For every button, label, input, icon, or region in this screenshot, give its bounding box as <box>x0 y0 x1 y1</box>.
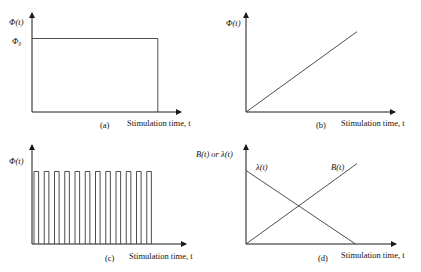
pulse <box>116 171 121 244</box>
pulse <box>55 171 60 244</box>
panel-caption: (a) <box>100 120 110 130</box>
pulse <box>85 171 90 244</box>
pulse <box>137 171 142 244</box>
pulse <box>75 171 80 244</box>
x-axis-label: Stimulation time, t <box>341 250 405 260</box>
lambda-label: λ(t) <box>255 162 268 172</box>
y-axis-label: Φ(t) <box>9 156 24 166</box>
panel-caption: (c) <box>105 253 115 263</box>
pulse <box>44 171 49 244</box>
panel-a: Φ(t) Φ₀ Stimulation time, t (a) <box>9 13 191 130</box>
x-axis-label: Stimulation time, t <box>341 118 405 128</box>
pulse <box>34 171 39 244</box>
x-axis-label: Stimulation time, t <box>129 251 193 261</box>
y-axis-label: Φ(t) <box>9 17 24 27</box>
panel-c: Φ(t) Stimulation time, t (c) <box>9 145 193 263</box>
pulse <box>106 171 111 244</box>
y-axis-label: Φ(t) <box>226 18 241 28</box>
level-label: Φ₀ <box>12 36 21 46</box>
pulse <box>65 171 70 244</box>
panel-d: B(t) or λ(t) λ(t) B(t) Stimulation time,… <box>196 145 405 263</box>
pulse <box>147 171 152 244</box>
panel-caption: (b) <box>316 120 326 130</box>
panel-caption: (d) <box>318 253 328 263</box>
figure: Φ(t) Φ₀ Stimulation time, t (a) Φ(t) Sti… <box>0 0 421 272</box>
constant-stimulus-line <box>32 39 158 113</box>
lambda-line <box>246 171 356 245</box>
y-axis-label: B(t) or λ(t) <box>196 149 233 159</box>
pulse <box>96 171 101 244</box>
b-line <box>246 164 357 244</box>
pulse <box>126 171 131 244</box>
ramp-stimulus-line <box>246 32 357 112</box>
pulse-train <box>34 171 151 244</box>
panel-b: Φ(t) Stimulation time, t (b) <box>226 13 405 130</box>
x-axis-label: Stimulation time, t <box>127 118 191 128</box>
b-label: B(t) <box>331 162 344 172</box>
